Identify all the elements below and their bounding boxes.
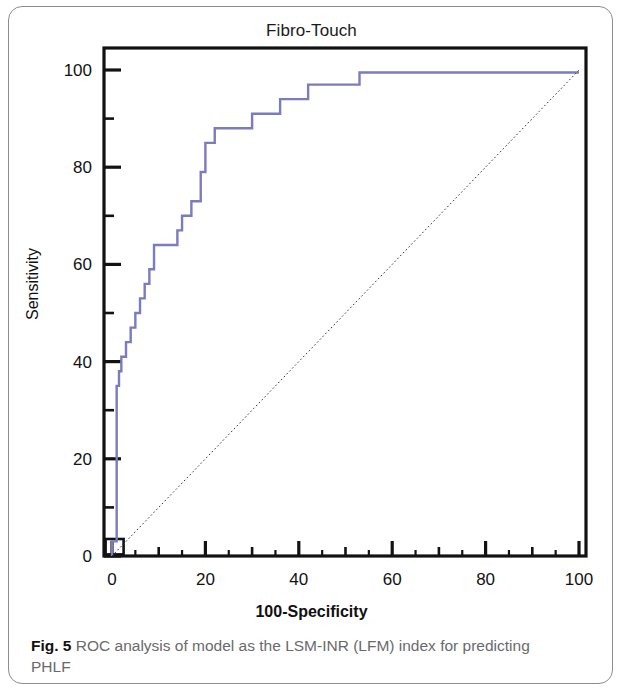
x-tick-label: 100 [565,570,593,589]
plot-area: 020406080100020406080100 Sensitivity 100… [9,7,614,607]
x-tick-label: 80 [476,570,495,589]
figure-number: Fig. 5 [31,637,71,654]
x-tick-label: 0 [107,570,116,589]
figure-panel: Fibro-Touch 020406080100020406080100 Sen… [8,6,613,684]
x-tick-label: 20 [196,570,215,589]
y-tick-label: 100 [64,61,92,80]
plot-frame [104,48,586,556]
reference-diagonal-line [112,70,579,556]
y-tick-label: 0 [83,547,92,566]
y-axis-title: Sensitivity [24,224,42,344]
y-tick-label: 60 [73,255,92,274]
roc-chart-svg: 020406080100020406080100 [9,7,614,607]
x-axis-title: 100-Specificity [9,603,614,621]
x-tick-label: 40 [289,570,308,589]
y-tick-label: 20 [73,450,92,469]
figure-caption: Fig. 5 ROC analysis of model as the LSM-… [31,635,551,677]
x-tick-label: 60 [383,570,402,589]
figure-caption-text: ROC analysis of model as the LSM-INR (LF… [31,637,530,675]
y-tick-label: 40 [73,353,92,372]
y-tick-label: 80 [73,158,92,177]
